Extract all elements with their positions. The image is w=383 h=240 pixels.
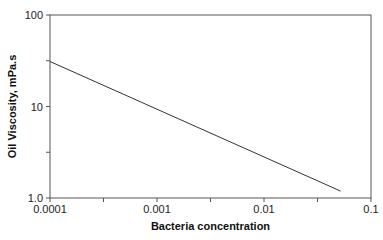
series-line [50, 62, 341, 192]
y-tick-label: 100 [25, 9, 43, 21]
x-axis-title: Bacteria concentration [151, 220, 270, 232]
x-tick-label: 0.1 [363, 203, 378, 215]
plot-area-frame [50, 15, 371, 198]
y-tick-label: 10 [31, 101, 43, 113]
series-group [50, 62, 341, 192]
y-axis-title: Oil Viscosity, mPa.s [6, 55, 18, 159]
chart: 0.00010.0010.010.1 1.010100 Bacteria con… [0, 0, 383, 240]
x-tick-label: 0.001 [143, 203, 171, 215]
y-tick-label: 1.0 [28, 192, 43, 204]
y-axis: 1.010100 [25, 9, 50, 204]
x-axis: 0.00010.0010.010.1 [33, 198, 378, 215]
x-tick-label: 0.0001 [33, 203, 67, 215]
x-tick-label: 0.01 [253, 203, 274, 215]
